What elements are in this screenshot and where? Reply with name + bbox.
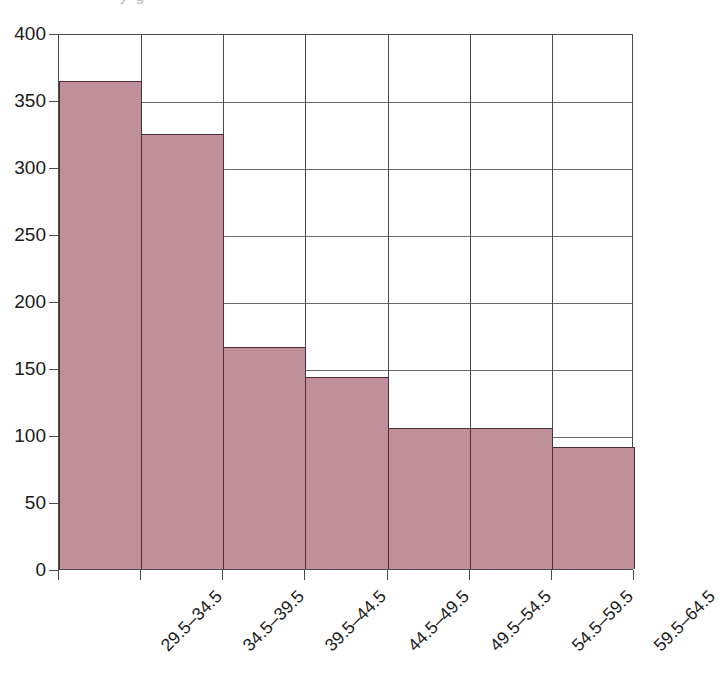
x-axis-tick-label: 49.5–54.5 <box>486 586 555 655</box>
y-axis-tick-label: 150 <box>14 358 46 379</box>
y-axis-tick-label: 350 <box>14 90 46 111</box>
x-axis-tick-mark <box>140 570 141 580</box>
y-axis-tick-label: 400 <box>14 23 46 44</box>
x-axis-tick-mark <box>551 570 552 580</box>
bar[interactable] <box>552 447 635 569</box>
y-axis-tick-label: 250 <box>14 224 46 245</box>
x-axis-tick-label: 44.5–49.5 <box>404 586 473 655</box>
plot-area <box>58 34 633 570</box>
y-axis-tick-mark <box>49 570 58 571</box>
x-axis-tick-label: 59.5–64.5 <box>650 586 719 655</box>
bar[interactable] <box>59 81 142 569</box>
y-axis-tick-label: 200 <box>14 291 46 312</box>
x-axis-tick-mark <box>387 570 388 580</box>
y-axis-tick-mark <box>49 369 58 370</box>
x-axis-tick-mark <box>222 570 223 580</box>
x-axis-tick-mark <box>58 570 59 580</box>
y-axis-tick-label: 100 <box>14 425 46 446</box>
bar[interactable] <box>470 428 553 569</box>
y-axis-tick-label: 50 <box>25 492 46 513</box>
bars-layer <box>59 35 632 569</box>
bar[interactable] <box>141 134 224 570</box>
y-axis-tick-mark <box>49 235 58 236</box>
x-axis-tick-label: 29.5–34.5 <box>157 586 226 655</box>
x-axis-tick-mark <box>469 570 470 580</box>
x-axis-tick-mark <box>633 570 634 580</box>
bar[interactable] <box>223 347 306 569</box>
x-axis-tick-label: 54.5–59.5 <box>568 586 637 655</box>
y-axis-tick-mark <box>49 302 58 303</box>
y-axis-tick-label: 300 <box>14 157 46 178</box>
y-axis-tick-mark <box>49 503 58 504</box>
y-axis-tick-mark <box>49 101 58 102</box>
y-axis-tick-mark <box>49 34 58 35</box>
y-axis-tick-mark <box>49 168 58 169</box>
x-axis-tick-mark <box>304 570 305 580</box>
x-axis-tick-label: 39.5–44.5 <box>321 586 390 655</box>
y-axis-tick-label: 0 <box>35 559 46 580</box>
x-axis-tick-label: 34.5–39.5 <box>239 586 308 655</box>
y-axis: 050100150200250300350400 <box>0 0 58 695</box>
bar[interactable] <box>388 428 471 569</box>
y-axis-tick-mark <box>49 436 58 437</box>
x-axis: 29.5–34.534.5–39.539.5–44.544.5–49.549.5… <box>58 570 633 695</box>
bar[interactable] <box>305 377 389 569</box>
